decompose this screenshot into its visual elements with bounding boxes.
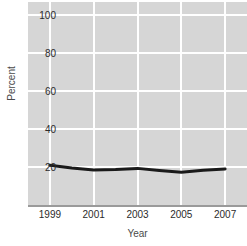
y-tick-label-80: 80 — [30, 48, 56, 59]
y-axis-title: Percent — [6, 54, 17, 114]
line-chart: Percent 20406080100 19992001200320052007… — [0, 0, 247, 246]
y-tick-label-100: 100 — [30, 10, 56, 21]
x-tick-label-1999: 1999 — [30, 209, 70, 220]
x-tick-label-2007: 2007 — [205, 209, 245, 220]
series-line-percent — [50, 165, 225, 172]
y-tick-label-20: 20 — [30, 162, 56, 173]
y-axis-tick-labels: 20406080100 — [28, 2, 56, 205]
x-tick-label-2001: 2001 — [74, 209, 114, 220]
y-tick-label-60: 60 — [30, 86, 56, 97]
x-tick-label-2005: 2005 — [161, 209, 201, 220]
x-axis-baseline — [28, 205, 247, 207]
y-tick-label-40: 40 — [30, 124, 56, 135]
x-axis-title: Year — [28, 228, 247, 239]
data-series-layer — [28, 2, 247, 205]
plot-area: 20406080100 — [28, 2, 247, 205]
x-tick-label-2003: 2003 — [118, 209, 158, 220]
